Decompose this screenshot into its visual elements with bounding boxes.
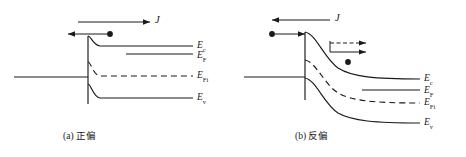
panel-b-current-arrow (272, 17, 330, 23)
panel-b-carrier-arrow (269, 31, 305, 37)
electron-dot (107, 31, 113, 37)
panel-b-secondary-arrows (330, 40, 366, 65)
panel-a-ev-curve (88, 84, 193, 98)
panel-a-graphics (14, 19, 193, 104)
hole-dot (345, 59, 351, 65)
band-diagram-figure: J Ec EF EFi Ev (a) 正偏 J Ec EF EFi Ev (b)… (0, 0, 466, 157)
panel-a-carrier-arrow (68, 31, 113, 37)
panel-a-ev-label: Ev (197, 93, 206, 103)
panel-b-ef-label: EF (424, 86, 433, 96)
panel-b-ec-curve (305, 32, 420, 79)
panel-b-current-label: J (335, 13, 340, 24)
panel-b-graphics (244, 17, 420, 123)
panel-a-ec-curve (88, 36, 193, 46)
panel-b-caption: (b) 反偏 (295, 132, 328, 142)
panel-a-ef-label: EF (197, 51, 206, 61)
panel-a-caption: (a) 正偏 (63, 132, 96, 142)
panel-b-ec-label: Ec (424, 74, 433, 84)
panel-a-current-arrow (78, 19, 150, 25)
panel-a-current-label: J (155, 15, 160, 26)
panel-b-ev-label: Ev (424, 118, 433, 128)
panel-a-efi-curve (88, 62, 193, 76)
panel-b-efi-label: EFi (424, 98, 435, 108)
panel-a-efi-label: EFi (197, 71, 208, 81)
